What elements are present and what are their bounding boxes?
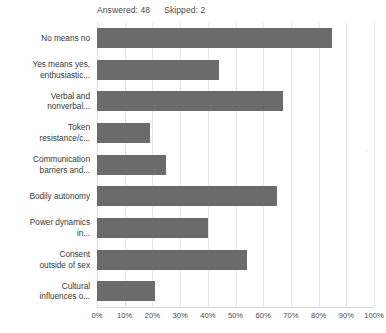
- x-tick-label: 50%: [228, 311, 243, 320]
- x-tick-label: 70%: [283, 311, 298, 320]
- category-label: No means no: [0, 33, 90, 44]
- bar: [97, 218, 208, 238]
- category-label-line: Consent: [0, 249, 90, 260]
- category-label: Yes means yes,enthusiastic...: [0, 59, 90, 80]
- category-label-line: Bodily autonomy: [0, 191, 90, 202]
- category-label-line: Power dynamics: [0, 217, 90, 228]
- bar: [97, 91, 283, 111]
- category-label: Communicationbarriers and...: [0, 154, 90, 175]
- category-label: Power dynamicsin...: [0, 217, 90, 238]
- scan-artifact: · ,: [366, 148, 372, 155]
- category-label-line: resistance/c...: [0, 133, 90, 144]
- x-tick-label: 10%: [117, 311, 132, 320]
- skipped-count: Skipped: 2: [164, 5, 205, 15]
- value-axis: 0%10%20%30%40%50%60%70%80%90%100%: [97, 307, 374, 327]
- x-tick-label: 60%: [256, 311, 271, 320]
- category-label: Bodily autonomy: [0, 191, 90, 202]
- category-label-line: Communication: [0, 154, 90, 165]
- category-axis-labels: No means noYes means yes,enthusiastic...…: [0, 22, 95, 307]
- gridline-100: [374, 22, 375, 307]
- answered-count: Answered: 48: [97, 5, 150, 15]
- x-tick-label: 30%: [172, 311, 187, 320]
- bar: [97, 60, 219, 80]
- axis-rule: [97, 307, 374, 308]
- bar: [97, 250, 247, 270]
- x-tick-label: 80%: [311, 311, 326, 320]
- category-label-line: influences o...: [0, 291, 90, 302]
- bar: [97, 281, 155, 301]
- bar: [97, 186, 277, 206]
- x-tick-label: 0%: [92, 311, 103, 320]
- category-label-line: Yes means yes,: [0, 59, 90, 70]
- category-label-line: enthusiastic...: [0, 70, 90, 81]
- category-label: Culturalinfluences o...: [0, 281, 90, 302]
- plot-area: [97, 22, 374, 307]
- category-label-line: No means no: [0, 33, 90, 44]
- bar: [97, 123, 150, 143]
- x-tick-label: 100%: [364, 311, 383, 320]
- bar-series: [97, 22, 374, 307]
- category-label: Tokenresistance/c...: [0, 122, 90, 143]
- x-tick-label: 20%: [145, 311, 160, 320]
- category-label-line: barriers and...: [0, 165, 90, 176]
- category-label-line: nonverbal...: [0, 101, 90, 112]
- category-label-line: Verbal and: [0, 91, 90, 102]
- x-tick-label: 90%: [339, 311, 354, 320]
- bar: [97, 28, 332, 48]
- category-label: Consentoutside of sex: [0, 249, 90, 270]
- category-label: Verbal andnonverbal...: [0, 91, 90, 112]
- bar-chart: No means noYes means yes,enthusiastic...…: [0, 22, 386, 307]
- category-label-line: Token: [0, 122, 90, 133]
- category-label-line: outside of sex: [0, 260, 90, 271]
- category-label-line: in...: [0, 228, 90, 239]
- bar: [97, 155, 166, 175]
- category-label-line: Cultural: [0, 281, 90, 292]
- x-tick-label: 40%: [200, 311, 215, 320]
- chart-summary-header: Answered: 48 Skipped: 2: [0, 0, 386, 20]
